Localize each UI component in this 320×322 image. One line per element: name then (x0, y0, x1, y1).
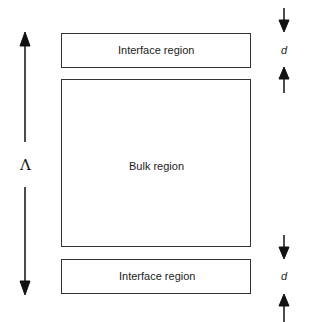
bottom-thickness-symbol: d (281, 270, 287, 282)
period-symbol: Λ (20, 156, 31, 174)
top-thickness-symbol: d (281, 44, 287, 56)
top-interface-label: Interface region (118, 44, 194, 56)
bulk-region-label: Bulk region (129, 160, 184, 172)
bottom-interface-label: Interface region (119, 270, 195, 282)
